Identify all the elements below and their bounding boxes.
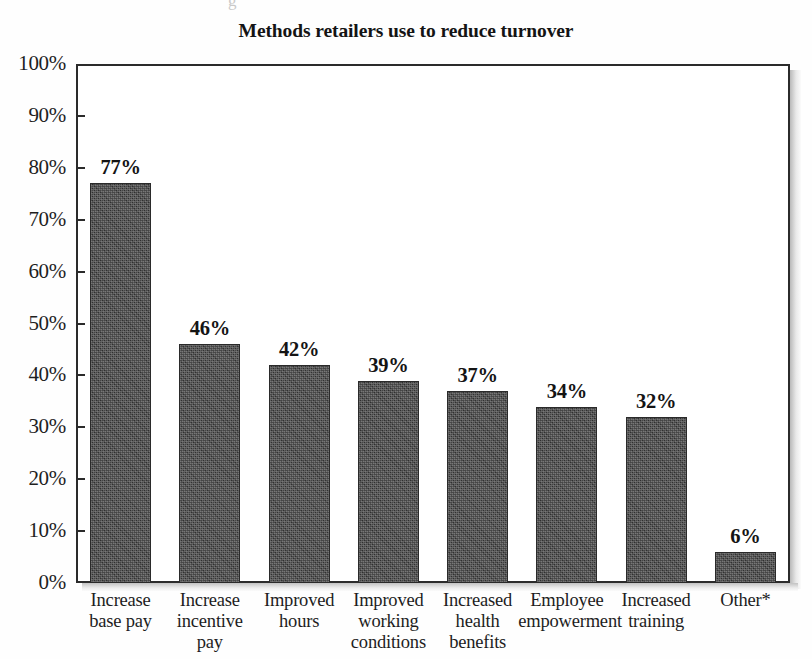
category-label-line: Increased bbox=[429, 590, 526, 611]
category-label-line: incentive bbox=[161, 611, 258, 632]
x-axis-category-label: Employeeempowerment bbox=[518, 590, 615, 632]
category-label-line: Employee bbox=[518, 590, 615, 611]
bar[interactable] bbox=[179, 344, 240, 583]
category-label-line: Other* bbox=[697, 590, 794, 611]
bar[interactable] bbox=[269, 365, 330, 583]
category-label-line: Increase bbox=[161, 590, 258, 611]
category-label-line: Improved bbox=[251, 590, 348, 611]
x-axis-category-label: Increaseincentivepay bbox=[161, 590, 258, 653]
bar[interactable] bbox=[447, 391, 508, 583]
bar-value-label: 39% bbox=[338, 354, 438, 377]
bar-series: 77%46%42%39%37%34%32%6% bbox=[0, 0, 812, 659]
bar[interactable] bbox=[536, 407, 597, 583]
chart-figure: g Methods retailers use to reduce turnov… bbox=[0, 0, 812, 659]
category-label-line: Improved bbox=[340, 590, 437, 611]
category-label-line: Increased bbox=[608, 590, 705, 611]
category-label-line: base pay bbox=[72, 611, 169, 632]
bar-value-label: 32% bbox=[606, 390, 706, 413]
category-label-line: empowerment bbox=[518, 611, 615, 632]
category-label-line: hours bbox=[251, 611, 348, 632]
bar[interactable] bbox=[358, 381, 419, 583]
bar[interactable] bbox=[90, 183, 151, 583]
category-label-line: conditions bbox=[340, 632, 437, 653]
bar-value-label: 37% bbox=[428, 364, 528, 387]
category-label-line: training bbox=[608, 611, 705, 632]
bar-value-label: 42% bbox=[249, 338, 349, 361]
x-axis-category-label: Increasebase pay bbox=[72, 590, 169, 632]
bar-value-label: 77% bbox=[71, 156, 171, 179]
x-axis-category-label: Increasedtraining bbox=[608, 590, 705, 632]
category-label-line: pay bbox=[161, 632, 258, 653]
category-label-line: health bbox=[429, 611, 526, 632]
bar-value-label: 6% bbox=[695, 525, 795, 548]
category-label-line: benefits bbox=[429, 632, 526, 653]
bar-value-label: 34% bbox=[517, 380, 617, 403]
bar[interactable] bbox=[626, 417, 687, 583]
category-label-line: Increase bbox=[72, 590, 169, 611]
x-axis-category-label: Improvedhours bbox=[251, 590, 348, 632]
bar[interactable] bbox=[715, 552, 776, 583]
bar-value-label: 46% bbox=[160, 317, 260, 340]
category-label-line: working bbox=[340, 611, 437, 632]
x-axis-category-label: Increasedhealthbenefits bbox=[429, 590, 526, 653]
x-axis-category-label: Improvedworkingconditions bbox=[340, 590, 437, 653]
x-axis-category-label: Other* bbox=[697, 590, 794, 611]
